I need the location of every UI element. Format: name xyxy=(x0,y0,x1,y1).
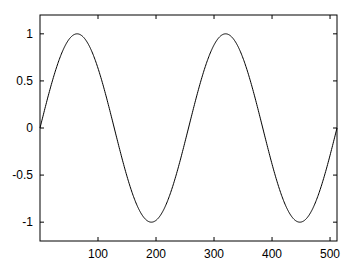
y-tick-label: -0.5 xyxy=(12,168,33,182)
y-axis-ticks: 10.50-0.5-1 xyxy=(12,27,337,229)
line-chart: 100200300400500 10.50-0.5-1 xyxy=(0,0,352,271)
series-line-0 xyxy=(40,34,337,222)
series-group xyxy=(40,34,337,222)
x-tick-label: 100 xyxy=(88,247,108,261)
y-tick-label: 0.5 xyxy=(16,74,33,88)
y-tick-label: 0 xyxy=(26,121,33,135)
x-tick-label: 500 xyxy=(320,247,340,261)
y-tick-label: -1 xyxy=(22,215,33,229)
x-axis-ticks: 100200300400500 xyxy=(88,15,340,261)
x-tick-label: 400 xyxy=(262,247,282,261)
y-tick-label: 1 xyxy=(26,27,33,41)
x-tick-label: 300 xyxy=(204,247,224,261)
x-tick-label: 200 xyxy=(146,247,166,261)
